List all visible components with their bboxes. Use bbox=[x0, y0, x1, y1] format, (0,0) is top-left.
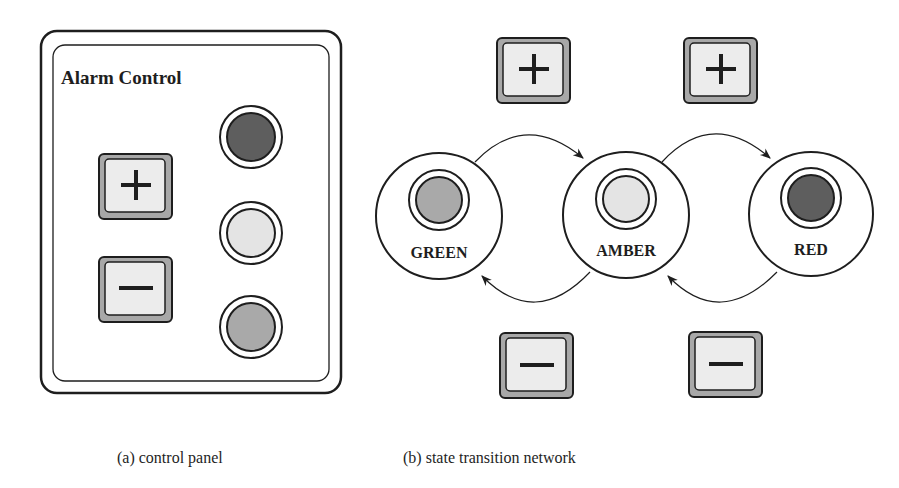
state-red: RED bbox=[749, 152, 873, 276]
plus-button[interactable] bbox=[99, 154, 172, 219]
arrow-red-to-amber bbox=[668, 272, 777, 302]
state-green: GREEN bbox=[376, 153, 502, 279]
minus-button-amber-to-green[interactable] bbox=[500, 333, 573, 398]
caption-state-network: (b) state transition network bbox=[403, 449, 576, 467]
minus-icon bbox=[520, 363, 554, 367]
plus-button-green-to-amber[interactable] bbox=[497, 38, 570, 103]
panel-title: Alarm Control bbox=[61, 67, 182, 88]
arrow-green-to-amber bbox=[475, 135, 583, 162]
arrow-amber-to-green bbox=[482, 272, 590, 302]
control-panel: Alarm Control bbox=[41, 31, 341, 393]
arrow-amber-to-red bbox=[662, 134, 770, 162]
state-label-amber: AMBER bbox=[596, 242, 656, 259]
state-network: GREEN AMBER RED bbox=[376, 38, 873, 398]
minus-button[interactable] bbox=[99, 257, 172, 322]
minus-icon bbox=[119, 286, 153, 290]
light-green bbox=[220, 296, 282, 358]
plus-button-amber-to-red[interactable] bbox=[684, 38, 757, 103]
state-label-green: GREEN bbox=[411, 244, 468, 261]
caption-control-panel: (a) control panel bbox=[117, 449, 223, 467]
minus-button-red-to-amber[interactable] bbox=[689, 332, 762, 397]
light-amber bbox=[220, 202, 282, 264]
state-label-red: RED bbox=[794, 241, 828, 258]
state-amber: AMBER bbox=[563, 152, 689, 278]
minus-icon bbox=[709, 362, 743, 366]
light-red bbox=[220, 106, 282, 168]
